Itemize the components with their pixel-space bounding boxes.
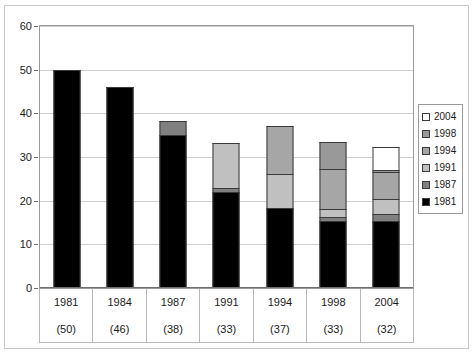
legend-item-label: 1994 xyxy=(434,145,456,156)
bar-segment[interactable] xyxy=(160,121,187,135)
x-axis-label-table: 1981(50)1984(46)1987(38)1991(33)1994(37)… xyxy=(39,289,414,343)
x-axis-category-label: 1998 xyxy=(307,289,359,316)
legend-item-label: 1998 xyxy=(434,128,456,139)
y-axis-tick-mark xyxy=(34,113,38,114)
y-axis-tick-mark xyxy=(34,157,38,158)
y-axis-tick-mark xyxy=(34,201,38,202)
y-axis-tick-label: 10 xyxy=(20,238,32,250)
y-axis-tick-label: 60 xyxy=(20,20,32,32)
y-axis-tick-label: 50 xyxy=(20,64,32,76)
legend-item[interactable]: 1991 xyxy=(422,159,460,176)
bar-slot xyxy=(40,26,93,288)
bar-segment[interactable] xyxy=(373,214,400,221)
legend-item-label: 1991 xyxy=(434,162,456,173)
bar-stack[interactable] xyxy=(106,87,133,288)
legend-swatch-icon xyxy=(422,147,430,155)
bar-segment[interactable] xyxy=(266,208,293,288)
x-axis-category-label: 1994 xyxy=(254,289,306,316)
bar-slot xyxy=(306,26,359,288)
legend-item-label: 1987 xyxy=(434,179,456,190)
bar-segment[interactable] xyxy=(320,209,347,217)
bar-slot xyxy=(253,26,306,288)
x-axis-category-label: 1984 xyxy=(93,289,145,316)
legend-swatch-icon xyxy=(422,164,430,172)
bar-slot xyxy=(360,26,413,288)
bar-slot xyxy=(93,26,146,288)
x-axis-baseline xyxy=(40,287,413,288)
x-axis-column: 2004(32) xyxy=(361,289,413,342)
legend-swatch-icon xyxy=(422,113,430,121)
bar-stack[interactable] xyxy=(213,143,240,288)
bar-segment[interactable] xyxy=(373,147,400,170)
y-axis-tick-label: 40 xyxy=(20,107,32,119)
legend-swatch-icon xyxy=(422,181,430,189)
x-axis-count-label: (37) xyxy=(254,316,306,343)
bar-segment[interactable] xyxy=(266,174,293,208)
bar-stack[interactable] xyxy=(160,121,187,288)
bar-segment[interactable] xyxy=(160,135,187,288)
legend-item[interactable]: 1998 xyxy=(422,125,460,142)
legend-item-label: 1981 xyxy=(434,196,456,207)
chart-legend: 200419981994199119871981 xyxy=(418,104,463,214)
bar-slot xyxy=(147,26,200,288)
x-axis-count-label: (32) xyxy=(361,316,413,343)
bar-stack[interactable] xyxy=(373,147,400,288)
plot-area xyxy=(39,25,414,289)
bar-segment[interactable] xyxy=(373,199,400,213)
bar-segment[interactable] xyxy=(53,70,80,288)
x-axis-category-label: 2004 xyxy=(361,289,413,316)
chart-title xyxy=(0,0,475,2)
bar-stack[interactable] xyxy=(53,70,80,288)
x-axis-count-label: (50) xyxy=(40,316,92,343)
x-axis-column: 1984(46) xyxy=(93,289,146,342)
bar-segment[interactable] xyxy=(320,221,347,288)
x-axis-category-label: 1987 xyxy=(147,289,199,316)
x-axis-count-label: (33) xyxy=(200,316,252,343)
legend-swatch-icon xyxy=(422,130,430,138)
x-axis-column: 1994(37) xyxy=(254,289,307,342)
y-axis-tick-mark xyxy=(34,288,38,289)
x-axis-column: 1987(38) xyxy=(147,289,200,342)
y-axis-tick-mark xyxy=(34,70,38,71)
bar-stack[interactable] xyxy=(266,126,293,288)
y-axis-tick-label: 0 xyxy=(26,282,32,294)
bar-segment[interactable] xyxy=(320,169,347,209)
x-axis-column: 1981(50) xyxy=(40,289,93,342)
bars-layer xyxy=(40,26,413,288)
bar-segment[interactable] xyxy=(106,87,133,288)
bar-segment[interactable] xyxy=(373,172,400,199)
legend-item[interactable]: 1981 xyxy=(422,193,460,210)
x-axis-column: 1991(33) xyxy=(200,289,253,342)
bar-segment[interactable] xyxy=(213,192,240,288)
x-axis-category-label: 1981 xyxy=(40,289,92,316)
y-axis-tick-mark xyxy=(34,244,38,245)
y-axis-tick-label: 30 xyxy=(20,151,32,163)
x-axis-count-label: (33) xyxy=(307,316,359,343)
x-axis-category-label: 1991 xyxy=(200,289,252,316)
y-axis-tick-mark xyxy=(34,26,38,27)
y-axis-tick-label: 20 xyxy=(20,195,32,207)
y-axis: 0102030405060 xyxy=(0,25,38,289)
bar-segment[interactable] xyxy=(373,221,400,288)
bar-segment[interactable] xyxy=(266,126,293,174)
legend-item[interactable]: 1994 xyxy=(422,142,460,159)
x-axis-count-label: (38) xyxy=(147,316,199,343)
stacked-bar-chart: 0102030405060 1981(50)1984(46)1987(38)19… xyxy=(0,0,475,358)
x-axis-count-label: (46) xyxy=(93,316,145,343)
legend-item-label: 2004 xyxy=(434,111,456,122)
x-axis-column: 1998(33) xyxy=(307,289,360,342)
bar-stack[interactable] xyxy=(320,142,347,288)
bar-segment[interactable] xyxy=(320,142,347,169)
legend-item[interactable]: 2004 xyxy=(422,108,460,125)
bar-slot xyxy=(200,26,253,288)
legend-item[interactable]: 1987 xyxy=(422,176,460,193)
legend-swatch-icon xyxy=(422,198,430,206)
bar-segment[interactable] xyxy=(213,143,240,188)
